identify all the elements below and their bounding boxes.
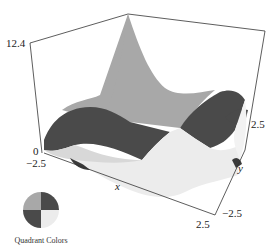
y-axis-label: y: [238, 163, 243, 174]
z-min-tick: 0: [33, 146, 39, 157]
surface: [44, 14, 248, 197]
x-max-tick: 2.5: [196, 219, 210, 230]
z-max-tick: 12.4: [6, 38, 25, 49]
legend: Quadrant Colors: [6, 190, 76, 245]
legend-label: Quadrant Colors: [6, 236, 76, 245]
x-min-tick: −2.5: [26, 158, 46, 169]
y-max-tick: 2.5: [251, 119, 265, 130]
x-axis-label: x: [115, 181, 120, 192]
y-min-tick: −2.5: [222, 208, 242, 219]
quadrant-colors-icon: [21, 190, 61, 230]
